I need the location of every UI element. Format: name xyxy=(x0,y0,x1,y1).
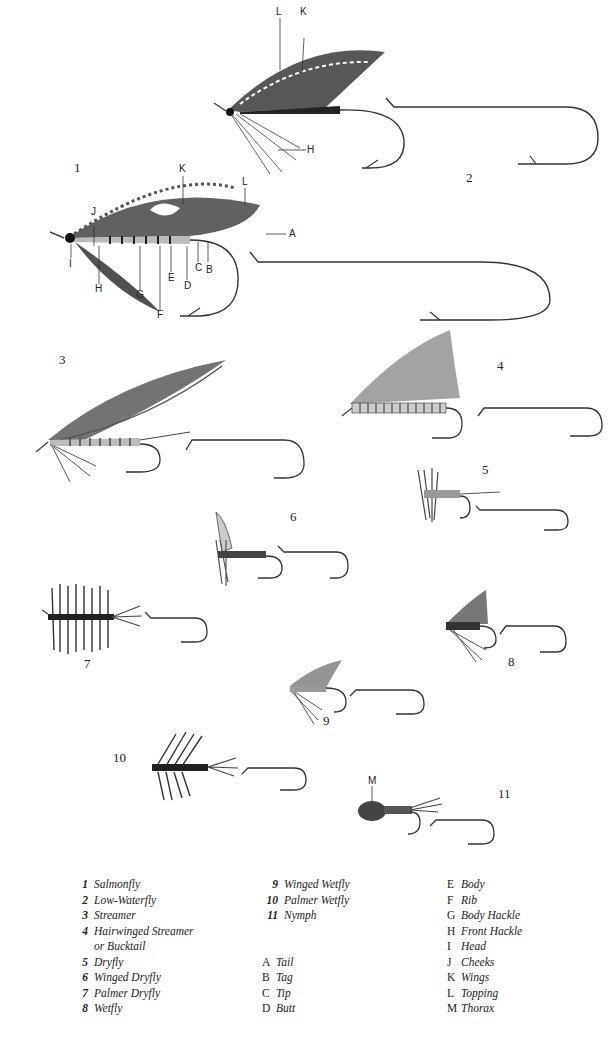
legend-item: 8Wetfly xyxy=(78,1001,194,1017)
legend-item: 3Streamer xyxy=(78,908,194,924)
callout-fig11-M: M xyxy=(368,775,376,786)
legend-part: KWings xyxy=(447,970,522,986)
legend-flies-column-1: 1Salmonfly 2Low-Waterfly 3Streamer 4Hair… xyxy=(78,877,194,1017)
fly-9-winged-wetfly xyxy=(290,660,424,724)
legend-item: 2Low-Waterfly xyxy=(78,893,194,909)
callout-fig1-L: L xyxy=(242,176,248,187)
figure-number-9: 9 xyxy=(323,713,330,729)
legend-item: 9Winged Wetfly xyxy=(262,877,350,893)
fly-2-low-waterfly xyxy=(214,18,598,174)
figure-number-1: 1 xyxy=(74,160,81,176)
legend-item: 11Nymph xyxy=(262,908,350,924)
figure-number-8: 8 xyxy=(508,654,515,670)
fly-illustration-plate: 1 2 3 4 5 6 7 8 9 10 11 L K H K L J A I … xyxy=(0,0,608,860)
fly-8-wetfly xyxy=(446,590,566,662)
legend-part: BTag xyxy=(262,970,350,986)
figure-number-2: 2 xyxy=(466,170,473,186)
legend-item: 5Dryfly xyxy=(78,955,194,971)
legend-item: 10Palmer Wetfly xyxy=(262,893,350,909)
callout-fig1-C: C xyxy=(195,262,202,273)
callout-fig1-E: E xyxy=(168,272,175,283)
legend-part: IHead xyxy=(447,939,522,955)
callout-fig2-K: K xyxy=(300,6,307,17)
callout-fig1-I: I xyxy=(69,258,72,269)
legend-part: HFront Hackle xyxy=(447,924,522,940)
legend-part: GBody Hackle xyxy=(447,908,522,924)
fly-11-nymph xyxy=(358,786,494,844)
figure-number-11: 11 xyxy=(498,786,511,802)
legend-item: or Bucktail xyxy=(78,939,194,955)
figure-number-5: 5 xyxy=(482,462,489,478)
legend-part: EBody xyxy=(447,877,522,893)
callout-fig1-H: H xyxy=(95,283,102,294)
figure-number-3: 3 xyxy=(59,352,66,368)
legend-item: 1Salmonfly xyxy=(78,877,194,893)
legend-item: 4Hairwinged Streamer xyxy=(78,924,194,940)
fly-6-winged-dryfly xyxy=(216,512,348,586)
callout-fig1-D: D xyxy=(184,280,191,291)
figure-number-10: 10 xyxy=(113,750,126,766)
fly-10-palmer-wetfly xyxy=(152,732,306,800)
fly-3-streamer xyxy=(36,360,304,482)
legend-item: 6Winged Dryfly xyxy=(78,970,194,986)
legend-part: FRib xyxy=(447,893,522,909)
fly-4-hairwinged-streamer xyxy=(342,330,602,438)
legend-item: 7Palmer Dryfly xyxy=(78,986,194,1002)
callout-fig2-H: H xyxy=(307,144,314,155)
fly-7-palmer-dryfly xyxy=(42,584,207,654)
legend-part: LTopping xyxy=(447,986,522,1002)
figure-number-7: 7 xyxy=(84,656,91,672)
fly-5-dryfly xyxy=(418,468,568,530)
fly-drawings xyxy=(0,0,608,860)
callout-fig2-L: L xyxy=(276,6,282,17)
figure-number-6: 6 xyxy=(290,509,297,525)
callout-fig1-G: G xyxy=(136,289,144,300)
figure-number-4: 4 xyxy=(497,358,504,374)
callout-fig1-F: F xyxy=(157,309,163,320)
callout-fig1-B: B xyxy=(206,264,213,275)
fly-1-salmonfly xyxy=(50,176,550,320)
legend-parts-column: EBody FRib GBody Hackle HFront Hackle IH… xyxy=(447,877,522,1017)
legend-part: ATail xyxy=(262,955,350,971)
callout-fig1-J: J xyxy=(91,206,96,217)
legend-part: DButt xyxy=(262,1001,350,1017)
callout-fig1-K: K xyxy=(179,163,186,174)
legend-part: CTip xyxy=(262,986,350,1002)
legend-part: JCheeks xyxy=(447,955,522,971)
callout-fig1-A: A xyxy=(289,228,296,239)
legend-flies-column-2: 9Winged Wetfly 10Palmer Wetfly 11Nymph A… xyxy=(262,877,350,1017)
legend-part: MThorax xyxy=(447,1001,522,1017)
